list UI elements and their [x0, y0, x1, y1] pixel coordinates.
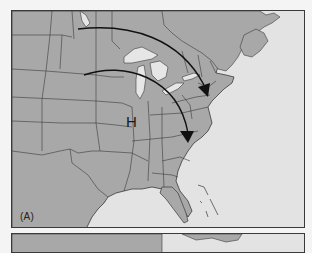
panel-label-a: (A) — [20, 211, 34, 222]
map-panel-a: H (A) — [11, 10, 305, 228]
high-pressure-label: H — [126, 113, 137, 130]
map-canvas-b — [12, 234, 305, 253]
map-canvas — [12, 11, 305, 228]
panel-b-land — [12, 234, 162, 253]
map-panel-b — [11, 233, 305, 253]
